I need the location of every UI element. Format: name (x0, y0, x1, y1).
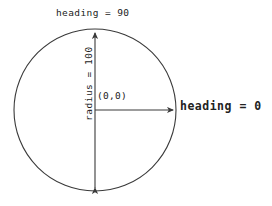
diagram-canvas: heading = 90 heading = 0 (0,0) radius = … (0, 0, 272, 206)
label-heading-0: heading = 0 (180, 101, 262, 113)
label-origin-coordinate: (0,0) (97, 91, 127, 101)
label-heading-90: heading = 90 (56, 8, 129, 18)
label-radius: radius = 100 (84, 46, 94, 121)
